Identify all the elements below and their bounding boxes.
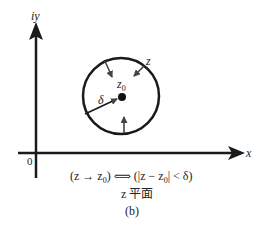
origin-label: 0 — [27, 155, 33, 167]
center-label: z0 — [116, 77, 126, 93]
inward-arrow-top — [105, 61, 112, 77]
caption-plane: z 平面 — [121, 187, 153, 201]
radius-label: δ — [98, 93, 104, 107]
complex-plane-diagram: iy x 0 z0 z δ (z → z0) ⟺ (|z − z0| < δ) … — [0, 0, 266, 233]
center-point — [118, 93, 126, 101]
inward-arrow-right — [134, 66, 144, 76]
x-axis-label: x — [245, 146, 252, 160]
y-axis-label: iy — [31, 9, 40, 23]
caption-subfigure: (b) — [125, 204, 139, 218]
point-z-label: z — [145, 54, 151, 68]
caption-equivalence: (z → z0) ⟺ (|z − z0| < δ) — [70, 169, 193, 185]
